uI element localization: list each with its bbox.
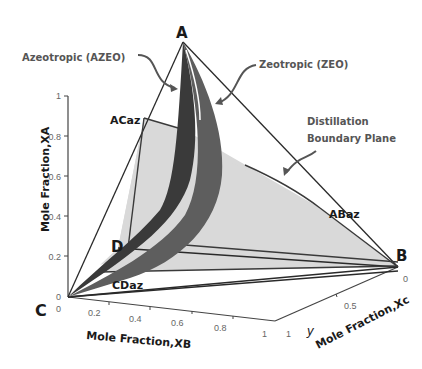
annotation-azeotropic: Azeotropic (AZEO): [22, 52, 125, 63]
y-axis-symbol: y: [306, 323, 315, 338]
svg-text:1: 1: [286, 329, 291, 339]
label-acaz: ACaz: [110, 114, 140, 127]
vertex-label-a: A: [176, 24, 188, 42]
vertex-label-c: C: [35, 301, 47, 320]
svg-text:0: 0: [403, 274, 408, 284]
annotation-zeotropic: Zeotropic (ZEO): [259, 59, 348, 70]
x-axis-title: Mole Fraction,XB: [86, 329, 192, 351]
svg-text:0.2: 0.2: [88, 308, 101, 318]
annotation-boundary-line2: Boundary Plane: [307, 133, 396, 144]
vertex-label-b: B: [396, 247, 407, 265]
vertex-label-d: D: [111, 238, 123, 256]
ternary-diagram: A B C D ACaz ABaz CDaz Azeotropic (AZEO)…: [0, 0, 422, 369]
svg-text:1: 1: [262, 329, 267, 339]
svg-text:0.4: 0.4: [129, 314, 142, 324]
z-axis-title: Mole Fraction,XA: [39, 126, 52, 232]
annotation-boundary-line1: Distillation: [307, 116, 369, 127]
svg-text:0.2: 0.2: [48, 252, 61, 262]
svg-text:0: 0: [56, 304, 61, 314]
label-abaz: ABaz: [329, 208, 360, 221]
svg-text:0.5: 0.5: [344, 301, 357, 311]
svg-text:0.8: 0.8: [214, 323, 227, 333]
y-axis-title: Mole Fraction,Xc: [313, 293, 411, 352]
x-axis-ticks: [109, 302, 233, 319]
svg-text:1: 1: [56, 91, 61, 101]
label-cdaz: CDaz: [112, 279, 143, 292]
svg-text:0.6: 0.6: [171, 318, 184, 328]
svg-text:0: 0: [56, 292, 61, 302]
